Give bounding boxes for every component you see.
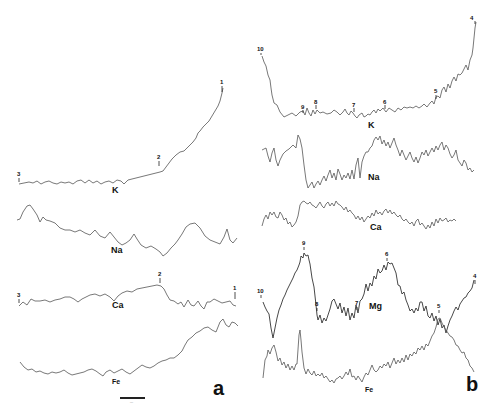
marker-a-k-3: 3 (17, 171, 21, 182)
svg-text:1: 1 (220, 79, 224, 85)
marker-a-ca-3: 3 (17, 292, 21, 303)
label-b-fe: Fe (365, 386, 373, 393)
marker-b-k-4: 4 (470, 15, 475, 24)
label-b-ca: Ca (370, 222, 382, 232)
label-a-na: Na (111, 245, 123, 255)
svg-text:8: 8 (314, 99, 318, 105)
svg-text:6: 6 (385, 251, 389, 257)
svg-text:2: 2 (158, 271, 162, 277)
scale-bar-label: — (130, 400, 133, 404)
panel-label-a: a (213, 377, 225, 399)
marker-b-k-7: 7 (352, 102, 356, 112)
svg-text:5: 5 (434, 88, 438, 94)
svg-text:2: 2 (157, 154, 161, 160)
svg-text:10: 10 (257, 288, 264, 294)
marker-b-mg-10: 10 (257, 288, 264, 298)
label-b-k: K (368, 120, 375, 130)
marker-b-mg-5: 5 (437, 303, 441, 313)
svg-text:5: 5 (437, 303, 441, 309)
trace-b-k (262, 22, 476, 118)
svg-text:7: 7 (352, 102, 356, 108)
marker-a-ca-1: 1 (233, 285, 237, 299)
marker-b-mg-6: 6 (385, 251, 389, 261)
trace-a-ca (19, 285, 236, 309)
panel-b: 10 9 8 7 6 5 4 K Na (257, 15, 478, 395)
label-b-na: Na (368, 172, 380, 182)
svg-text:6: 6 (383, 99, 387, 105)
trace-a-k (19, 88, 223, 184)
label-a-k: K (112, 185, 119, 195)
marker-b-k-10: 10 (257, 46, 264, 55)
svg-text:1: 1 (233, 285, 237, 291)
marker-b-k-8: 8 (314, 99, 318, 109)
svg-text:8: 8 (315, 301, 319, 307)
svg-text:4: 4 (473, 273, 477, 279)
svg-text:4: 4 (470, 15, 474, 21)
marker-b-k-5: 5 (434, 88, 438, 99)
label-b-mg: Mg (369, 301, 382, 311)
svg-text:7: 7 (355, 300, 359, 306)
svg-text:9: 9 (301, 104, 305, 110)
svg-text:3: 3 (17, 171, 21, 177)
marker-a-ca-2: 2 (158, 271, 162, 283)
panel-label-b: b (466, 373, 478, 395)
svg-text:9: 9 (302, 240, 306, 246)
svg-text:10: 10 (257, 46, 264, 52)
marker-a-k-1: 1 (220, 79, 224, 92)
panel-a: 3 2 1 K Na 3 2 1 Ca Fe (17, 79, 238, 404)
trace-b-mg (263, 253, 474, 338)
svg-text:3: 3 (17, 292, 21, 298)
marker-b-mg-8: 8 (315, 301, 319, 311)
label-a-fe: Fe (112, 378, 120, 385)
marker-b-mg-9: 9 (302, 240, 306, 250)
label-a-ca: Ca (112, 300, 124, 310)
trace-a-fe (20, 319, 238, 376)
line-scan-figure: 3 2 1 K Na 3 2 1 Ca Fe (0, 0, 495, 415)
trace-b-ca (262, 201, 456, 229)
trace-a-na (17, 205, 237, 256)
marker-b-k-6: 6 (383, 99, 387, 109)
marker-a-k-2: 2 (157, 154, 161, 166)
